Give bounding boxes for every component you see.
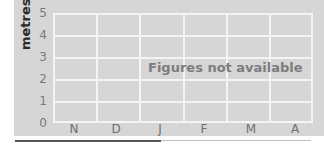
divider-rule-light <box>161 140 311 141</box>
no-data-message: Figures not available <box>148 60 303 75</box>
y-tick: 1 <box>37 95 49 107</box>
x-tick: A <box>285 123 305 136</box>
x-tick: N <box>64 123 84 136</box>
y-tick: 4 <box>37 29 49 41</box>
x-tick: D <box>106 123 126 136</box>
gridline <box>311 13 313 123</box>
x-tick: F <box>194 123 214 136</box>
y-axis-label: metres <box>18 0 33 50</box>
y-tick: 3 <box>37 51 49 63</box>
gridline <box>139 13 141 123</box>
y-tick: 5 <box>37 7 49 19</box>
y-tick: 2 <box>37 73 49 85</box>
gridline <box>53 13 55 123</box>
x-tick: J <box>150 123 170 136</box>
gridline <box>96 13 98 123</box>
y-tick: 0 <box>37 117 49 129</box>
divider-rule <box>15 140 161 142</box>
x-tick: M <box>241 123 261 136</box>
